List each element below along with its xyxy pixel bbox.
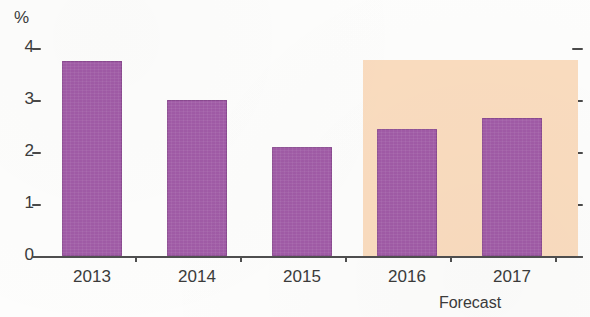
bar-2017 xyxy=(482,118,542,256)
x-axis-label-2017: 2017 xyxy=(460,267,565,287)
plot-area: 43210 20132014201520162017 xyxy=(0,0,590,317)
y-tick-mark xyxy=(32,204,41,206)
bar-2013 xyxy=(62,61,122,256)
right-tick-4 xyxy=(572,48,583,50)
bar-2014 xyxy=(167,100,227,256)
y-tick-mark xyxy=(32,152,41,154)
y-tick-label: 0 xyxy=(25,245,34,265)
y-tick-label: 4 xyxy=(25,37,34,57)
x-axis-label-2015: 2015 xyxy=(250,267,355,287)
y-tick-mark xyxy=(32,48,41,50)
y-tick-mark xyxy=(32,100,41,102)
x-axis-label-2016: 2016 xyxy=(355,267,460,287)
bar-2015 xyxy=(272,147,332,256)
bar-chart: 43210 20132014201520162017 % Forecast xyxy=(0,0,590,317)
y-tick-label: 3 xyxy=(25,89,34,109)
y-tick-label: 2 xyxy=(25,141,34,161)
x-axis-label-2013: 2013 xyxy=(40,267,145,287)
y-tick-label: 1 xyxy=(25,193,34,213)
x-axis-line xyxy=(32,256,583,258)
forecast-caption: Forecast xyxy=(363,294,578,312)
y-axis-unit-label: % xyxy=(14,8,29,28)
x-axis-label-2014: 2014 xyxy=(145,267,250,287)
bar-2016 xyxy=(377,129,437,256)
